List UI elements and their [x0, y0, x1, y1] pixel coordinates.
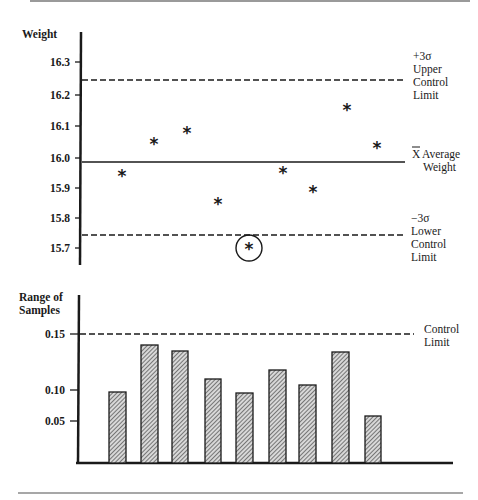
bar [141, 345, 158, 463]
svg-text:15.8: 15.8 [50, 212, 70, 224]
svg-text:+3σ: +3σ [413, 50, 432, 62]
average-weight-label: X Average Weight [412, 147, 460, 174]
svg-text:16.1: 16.1 [50, 120, 70, 132]
bar [236, 393, 253, 463]
svg-text:Control: Control [413, 76, 448, 88]
bar [332, 352, 349, 463]
bar [109, 392, 126, 463]
range-control-limit-label: Control Limit [424, 323, 459, 348]
bar [299, 385, 316, 463]
svg-text:Control: Control [424, 323, 459, 335]
y-tick-labels: 0.15 0.10 0.05 [45, 328, 65, 427]
svg-text:15.9: 15.9 [50, 182, 70, 194]
bar [365, 416, 381, 463]
svg-text:Upper: Upper [413, 63, 442, 76]
svg-text:Control: Control [411, 238, 446, 250]
svg-text:16.0: 16.0 [50, 152, 70, 164]
data-point-out-of-control: * [245, 239, 254, 259]
svg-text:Limit: Limit [413, 89, 439, 101]
range-chart: Range of Samples 0.15 0.10 0.05 Control … [19, 291, 459, 463]
svg-text:0.10: 0.10 [45, 384, 65, 396]
bar [205, 379, 221, 463]
lower-control-limit-label: −3σ Lower Control Limit [411, 212, 446, 263]
svg-text:16.3: 16.3 [50, 56, 70, 68]
data-point: * [343, 100, 352, 120]
svg-text:−3σ: −3σ [411, 212, 430, 224]
y-axis-title-line2: Samples [19, 304, 60, 317]
svg-text:Lower: Lower [411, 225, 441, 237]
y-tick-labels: 16.3 16.2 16.1 16.0 15.9 15.8 15.7 [50, 56, 70, 254]
svg-text:16.2: 16.2 [50, 89, 70, 101]
data-point: * [183, 123, 192, 143]
data-point: * [214, 194, 223, 214]
svg-text:Limit: Limit [424, 336, 450, 348]
control-chart-figure: Weight 16.3 16.2 16.1 16.0 15.9 15.8 15.… [0, 0, 478, 500]
svg-text:Limit: Limit [411, 251, 437, 263]
svg-text:15.7: 15.7 [50, 242, 70, 254]
weight-chart: Weight 16.3 16.2 16.1 16.0 15.9 15.8 15.… [22, 28, 460, 265]
svg-text:0.05: 0.05 [45, 415, 65, 427]
bar [269, 370, 286, 463]
data-point: * [309, 182, 318, 202]
range-bars [109, 345, 381, 463]
svg-text:Average: Average [422, 148, 460, 161]
upper-control-limit-label: +3σ Upper Control Limit [413, 50, 448, 101]
weight-data-points: * * * * * * * * * [118, 100, 382, 261]
data-point: * [279, 163, 288, 183]
y-axis [80, 32, 81, 265]
y-axis [78, 295, 79, 463]
data-point: * [150, 134, 159, 154]
svg-text:0.15: 0.15 [45, 328, 65, 340]
svg-text:Weight: Weight [423, 161, 457, 174]
data-point: * [373, 138, 382, 158]
data-point: * [118, 166, 127, 186]
svg-text:X: X [412, 148, 421, 160]
bar [172, 351, 188, 463]
y-axis-title: Weight [22, 28, 57, 41]
y-axis-title-line1: Range of [19, 291, 63, 304]
